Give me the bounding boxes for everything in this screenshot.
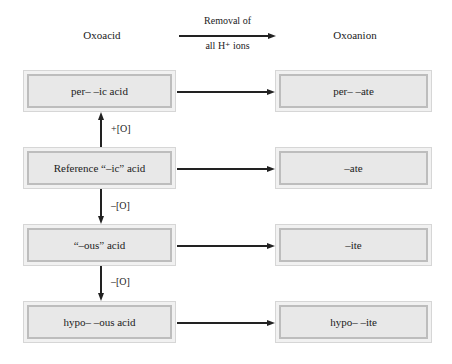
- removal-label-bottom: all H⁺ ions: [180, 40, 275, 51]
- conversion-arrow-head: [267, 243, 275, 249]
- reduction-arrow-line: [100, 266, 102, 294]
- reduction-label: –[O]: [111, 200, 130, 211]
- acid-box-hypo-ous: hypo– –ous acid: [23, 301, 176, 343]
- anion-label: hypo– –ite: [279, 305, 428, 339]
- oxidation-arrow-line: [100, 118, 102, 147]
- acid-box-reference-ic: Reference “–ic” acid: [23, 147, 176, 189]
- anion-box-hypo-ite: hypo– –ite: [275, 301, 432, 343]
- reduction-arrow-line: [100, 189, 102, 217]
- anion-label: per– –ate: [279, 74, 428, 108]
- acid-label: hypo– –ous acid: [27, 305, 172, 339]
- reduction-arrow-head: [98, 216, 104, 224]
- conversion-arrow-head: [267, 166, 275, 172]
- acid-box-per-ic: per– –ic acid: [23, 70, 176, 112]
- conversion-arrow-line: [177, 168, 268, 170]
- anion-box-ite: –ite: [275, 224, 432, 266]
- acid-label: “–ous” acid: [27, 228, 172, 262]
- removal-label-top: Removal of: [180, 15, 275, 26]
- removal-arrow-line: [179, 35, 269, 37]
- reduction-arrow-head: [98, 293, 104, 301]
- oxoacid-header: Oxoacid: [62, 29, 142, 41]
- conversion-arrow-head: [267, 320, 275, 326]
- reduction-label: –[O]: [111, 276, 130, 287]
- conversion-arrow-line: [177, 91, 268, 93]
- conversion-arrow-line: [177, 322, 268, 324]
- oxoanion-header: Oxoanion: [310, 29, 400, 41]
- anion-label: –ite: [279, 228, 428, 262]
- anion-box-per-ate: per– –ate: [275, 70, 432, 112]
- anion-label: –ate: [279, 151, 428, 185]
- removal-arrow-head: [268, 33, 276, 39]
- oxidation-arrow-head: [98, 112, 104, 120]
- anion-box-ate: –ate: [275, 147, 432, 189]
- acid-box-ous: “–ous” acid: [23, 224, 176, 266]
- conversion-arrow-head: [267, 89, 275, 95]
- acid-label: per– –ic acid: [27, 74, 172, 108]
- acid-label: Reference “–ic” acid: [27, 151, 172, 185]
- conversion-arrow-line: [177, 245, 268, 247]
- oxidation-label: +[O]: [111, 123, 131, 134]
